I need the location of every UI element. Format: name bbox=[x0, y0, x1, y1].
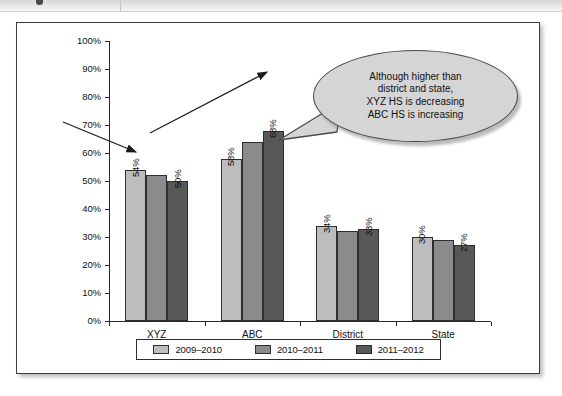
bar bbox=[263, 131, 284, 321]
bar bbox=[433, 240, 454, 321]
y-axis-tick-label: 30% bbox=[57, 231, 101, 242]
callout-text: Although higher thandistrict and state,X… bbox=[313, 50, 518, 142]
callout-line: district and state, bbox=[378, 83, 454, 96]
bar-chart: 0%10%20%30%40%50%60%70%80%90%100% 54%50%… bbox=[17, 23, 541, 375]
bar-value-label: 58% bbox=[225, 147, 236, 165]
y-axis-tick-label: 80% bbox=[57, 91, 101, 102]
x-axis-tick-mark bbox=[300, 322, 301, 326]
bar-value-label: 33% bbox=[363, 217, 374, 235]
legend-entry: 2009–2010 bbox=[153, 344, 222, 355]
toolbar-dot-icon bbox=[36, 0, 43, 5]
bar bbox=[125, 170, 146, 321]
legend-swatch bbox=[356, 345, 372, 354]
toolbar-seam-divider bbox=[120, 0, 121, 11]
chart-legend: 2009–20102010–20112011–2012 bbox=[136, 339, 441, 360]
bar bbox=[412, 237, 433, 321]
bar-value-label: 30% bbox=[416, 226, 427, 244]
callout-line: ABC HS is increasing bbox=[368, 109, 464, 122]
figure-frame: 0%10%20%30%40%50%60%70%80%90%100% 54%50%… bbox=[16, 22, 540, 374]
y-axis-tick-label: 90% bbox=[57, 63, 101, 74]
cut-off-toolbar-strip bbox=[0, 0, 562, 12]
bar bbox=[242, 142, 263, 321]
bar bbox=[221, 159, 242, 321]
y-axis-tick-label: 0% bbox=[57, 315, 101, 326]
x-axis-tick-mark bbox=[205, 322, 206, 326]
bar bbox=[167, 181, 188, 321]
legend-label: 2009–2010 bbox=[175, 344, 222, 355]
bar-value-label: 50% bbox=[172, 170, 183, 188]
legend-label: 2011–2012 bbox=[378, 344, 424, 355]
y-axis-line bbox=[109, 41, 110, 322]
bar bbox=[454, 245, 475, 321]
y-axis-tick-label: 60% bbox=[57, 147, 101, 158]
callout-line: Although higher than bbox=[369, 71, 461, 84]
abc-increasing-arrow bbox=[150, 72, 267, 133]
y-axis-tick-label: 70% bbox=[57, 119, 101, 130]
y-axis-tick-label: 50% bbox=[57, 175, 101, 186]
bar bbox=[337, 231, 358, 321]
bar-value-label: 34% bbox=[321, 214, 332, 232]
bar-value-label: 27% bbox=[458, 234, 469, 252]
x-axis-tick-mark bbox=[109, 322, 110, 326]
y-axis-tick-label: 100% bbox=[57, 35, 101, 46]
legend-swatch bbox=[255, 345, 271, 354]
legend-entry: 2011–2012 bbox=[356, 344, 424, 355]
bar bbox=[316, 226, 337, 321]
x-axis-tick-mark bbox=[396, 322, 397, 326]
bar bbox=[146, 175, 167, 321]
bar-value-label: 54% bbox=[130, 158, 141, 176]
bar-value-label: 68% bbox=[267, 119, 278, 137]
x-axis-tick-mark bbox=[491, 322, 492, 326]
legend-label: 2010–2011 bbox=[277, 344, 323, 355]
y-axis-tick-label: 20% bbox=[57, 259, 101, 270]
callout-line: XYZ HS is decreasing bbox=[367, 96, 465, 109]
legend-swatch bbox=[153, 345, 169, 354]
y-axis-tick-label: 40% bbox=[57, 203, 101, 214]
legend-entry: 2010–2011 bbox=[255, 344, 323, 355]
bar bbox=[358, 229, 379, 321]
y-axis-tick-label: 10% bbox=[57, 287, 101, 298]
callout-bubble: Although higher thandistrict and state,X… bbox=[313, 50, 518, 142]
